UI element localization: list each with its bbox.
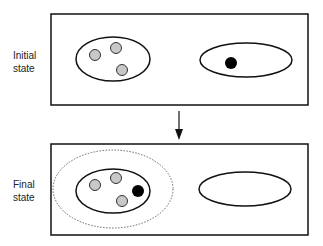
black-particle <box>132 185 144 197</box>
label-line: state <box>13 62 36 75</box>
label-line: Initial <box>13 49 36 62</box>
gray-particle <box>90 180 101 191</box>
initial-state-box <box>51 14 308 105</box>
right-region-initial <box>200 43 292 77</box>
final-state-label: Final state <box>13 178 35 204</box>
initial-state-label: Initial state <box>13 49 36 75</box>
gray-particle <box>111 173 122 184</box>
label-line: state <box>13 191 35 204</box>
black-particle <box>225 57 237 69</box>
arrow-head-icon <box>175 129 183 140</box>
gray-particle <box>117 196 128 207</box>
gray-particle <box>111 43 122 54</box>
diagram-canvas <box>0 0 323 246</box>
gray-particle <box>90 50 101 61</box>
dotted-boundary <box>53 150 173 228</box>
final-state-box <box>51 144 308 235</box>
gray-particle <box>117 65 128 76</box>
right-region-final <box>199 172 291 206</box>
label-line: Final <box>13 178 35 191</box>
